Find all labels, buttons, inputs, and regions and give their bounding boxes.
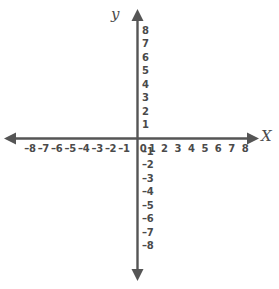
y-tick-label: 2 [142, 107, 149, 117]
x-tick-label: –5 [65, 144, 76, 154]
x-tick-label: 8 [242, 144, 249, 154]
x-tick-label: –2 [105, 144, 116, 154]
x-tick-label: 4 [188, 144, 195, 154]
x-tick-label: 6 [215, 144, 222, 154]
x-tick-label: 2 [161, 144, 168, 154]
x-tick-label: –4 [78, 144, 89, 154]
x-tick-label: –1 [118, 144, 129, 154]
y-axis-top-arrowhead [132, 9, 144, 21]
y-tick-label: –1 [142, 147, 153, 157]
y-tick-label: 8 [142, 26, 149, 36]
y-tick-label: –5 [142, 201, 153, 211]
y-tick-label: 5 [142, 66, 149, 76]
x-tick-label: –3 [91, 144, 102, 154]
y-tick-label: –7 [142, 228, 153, 238]
y-tick-label: –3 [142, 174, 153, 184]
y-tick-label: –2 [142, 160, 153, 170]
x-tick-label: –7 [38, 144, 49, 154]
x-axis-label: X [261, 129, 272, 144]
x-axis-left-arrowhead [4, 133, 16, 145]
coordinate-plane-figure: y X –8–7–6–5–4–3–2–1012345678 87654321–1… [0, 0, 279, 289]
y-tick-label: 7 [142, 39, 149, 49]
y-axis-label: y [111, 7, 119, 22]
y-tick-label: –4 [142, 187, 153, 197]
y-tick-label: –8 [142, 241, 153, 251]
x-tick-label: 5 [201, 144, 208, 154]
y-axis-bottom-arrowhead [132, 269, 144, 281]
y-tick-label: –6 [142, 214, 153, 224]
y-tick-label: 3 [142, 93, 149, 103]
y-tick-label: 6 [142, 53, 149, 63]
x-axis-right-arrowhead [247, 133, 259, 145]
y-tick-label: 1 [142, 120, 149, 130]
x-tick-label: –8 [24, 144, 35, 154]
x-tick-label: –6 [51, 144, 62, 154]
y-tick-label: 4 [142, 80, 149, 90]
x-tick-label: 3 [175, 144, 182, 154]
x-tick-label: 7 [228, 144, 235, 154]
